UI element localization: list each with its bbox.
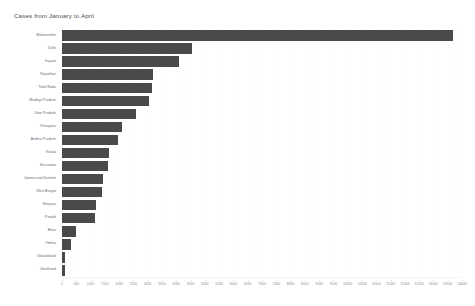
bar[interactable] [62, 83, 152, 93]
x-axis-tick-label: 6500 [244, 283, 252, 286]
bar[interactable] [62, 174, 103, 184]
x-axis-tick-label: 3500 [158, 283, 166, 286]
x-axis-tick-label: 2000 [115, 283, 123, 286]
bar-row[interactable] [62, 96, 462, 106]
x-axis-tick-label: 1500 [101, 283, 109, 286]
bar[interactable] [62, 148, 109, 158]
bar-row[interactable] [62, 161, 462, 171]
y-axis-tick-label: Madhya Pradesh [30, 99, 56, 103]
y-axis-tick-label: Uttar Pradesh [34, 112, 56, 116]
bar[interactable] [62, 200, 96, 210]
y-axis-tick-label: Andhra Pradesh [31, 138, 56, 142]
bar[interactable] [62, 135, 118, 145]
bar-row[interactable] [62, 200, 462, 210]
y-axis-tick-label: Tamil Nadu [38, 86, 56, 90]
x-axis-tick-label: 8500 [301, 283, 309, 286]
x-axis-tick-label: 9500 [330, 283, 338, 286]
x-axis-tick-label: 500 [73, 283, 79, 286]
bar[interactable] [62, 122, 122, 132]
y-axis-tick-label: Jharkhand [40, 268, 56, 272]
x-axis-tick-label: 6000 [230, 283, 238, 286]
x-axis-tick-label: 2500 [130, 283, 138, 286]
x-axis-tick-label: 10000 [343, 283, 352, 286]
x-axis-tick-label: 5500 [215, 283, 223, 286]
bar-row[interactable] [62, 109, 462, 119]
x-axis-tick-label: 0 [61, 283, 63, 286]
x-axis-tick-label: 1000 [87, 283, 95, 286]
x-axis-tick-label: 14000 [457, 283, 466, 286]
bar-row[interactable] [62, 174, 462, 184]
bar-row[interactable] [62, 30, 462, 40]
x-axis-tick-label: 5000 [201, 283, 209, 286]
bar[interactable] [62, 96, 149, 106]
bar[interactable] [62, 187, 102, 197]
y-axis-tick-label: Gujarat [45, 60, 56, 64]
x-axis-tick-label: 8000 [287, 283, 295, 286]
bar[interactable] [62, 265, 65, 275]
bar[interactable] [62, 252, 65, 262]
x-axis-tick-label: 4000 [173, 283, 181, 286]
x-axis-tick-label: 12500 [414, 283, 423, 286]
bar-row[interactable] [62, 122, 462, 132]
gridline [462, 29, 463, 277]
x-axis-tick-label: 13500 [443, 283, 452, 286]
bar[interactable] [62, 109, 136, 119]
bar[interactable] [62, 161, 108, 171]
x-axis-tick-label: 10500 [357, 283, 366, 286]
y-axis-tick-label: Maharashtra [36, 34, 56, 38]
y-axis-tick-label: Telangana [40, 125, 56, 129]
x-axis-ticks: 0500100015002000250030003500400045005000… [62, 280, 462, 294]
bar-row[interactable] [62, 43, 462, 53]
bar-row[interactable] [62, 187, 462, 197]
y-axis-tick-label: Bihar [48, 229, 56, 233]
y-axis-tick-label: Karnataka [40, 164, 56, 168]
y-axis-tick-label: West Bengal [36, 190, 56, 194]
y-axis-tick-label: Uttarakhand [37, 255, 56, 259]
y-axis-tick-label: Punjab [45, 216, 56, 220]
bar-chart-figure: Cases from January to April MaharashtraD… [0, 0, 475, 306]
bar-row[interactable] [62, 135, 462, 145]
bar[interactable] [62, 226, 76, 236]
bar[interactable] [62, 213, 95, 223]
x-axis-tick-label: 13000 [429, 283, 438, 286]
y-axis-tick-label: Haryana [43, 203, 56, 207]
bar-row[interactable] [62, 213, 462, 223]
bars-layer [62, 29, 462, 277]
y-axis-labels: MaharashtraDelhiGujaratRajasthanTamil Na… [0, 29, 59, 277]
bar-row[interactable] [62, 226, 462, 236]
chart-title: Cases from January to April [14, 12, 94, 19]
bar[interactable] [62, 69, 153, 79]
x-axis-tick-label: 12000 [400, 283, 409, 286]
x-axis-tick-label: 11000 [372, 283, 381, 286]
x-axis-tick-label: 4500 [187, 283, 195, 286]
bar-row[interactable] [62, 83, 462, 93]
y-axis-tick-label: Jammu and Kashmir [24, 177, 56, 181]
y-axis-tick-label: Rajasthan [40, 73, 56, 77]
x-axis-tick-label: 7500 [273, 283, 281, 286]
x-axis-tick-label: 3000 [144, 283, 152, 286]
y-axis-tick-label: Kerala [46, 151, 56, 155]
plot-area [62, 29, 462, 277]
bar[interactable] [62, 56, 179, 66]
x-axis-line [62, 277, 462, 278]
bar-row[interactable] [62, 69, 462, 79]
bar-row[interactable] [62, 148, 462, 158]
x-axis-tick-label: 7000 [258, 283, 266, 286]
bar-row[interactable] [62, 265, 462, 275]
x-axis-tick-label: 11500 [386, 283, 395, 286]
bar-row[interactable] [62, 239, 462, 249]
bar[interactable] [62, 239, 71, 249]
bar[interactable] [62, 30, 453, 40]
y-axis-tick-label: Odisha [45, 242, 56, 246]
bar-row[interactable] [62, 56, 462, 66]
bar[interactable] [62, 43, 192, 53]
x-axis-tick-label: 9000 [315, 283, 323, 286]
bar-row[interactable] [62, 252, 462, 262]
y-axis-tick-label: Delhi [48, 47, 56, 51]
